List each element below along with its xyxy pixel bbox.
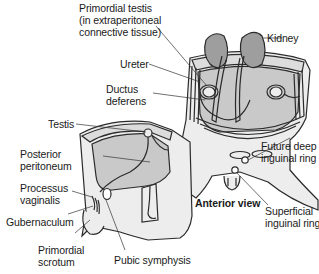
label-gubernaculum: Gubernaculum [6,216,74,228]
label-primordial-scrotum: Primordial scrotum [38,244,84,268]
label-primordial-testis: Primordial testis (in extraperitoneal co… [79,2,161,38]
label-pubic-symphysis: Pubic symphysis [114,254,191,266]
label-superficial-inguinal-ring: Superficial inguinal ring [265,205,319,229]
label-future-deep-inguinal-ring: Future deep inguinal ring [261,140,317,164]
label-testis: Testis [48,118,74,130]
label-ductus-deferens: Ductus deferens [106,83,146,107]
label-kidney: Kidney [267,32,299,44]
label-anterior-view: Anterior view [195,197,260,209]
label-ureter: Ureter [120,58,149,70]
label-posterior-peritoneum: Posterior peritoneum [20,148,72,172]
embryology-diagram: Primordial testis (in extraperitoneal co… [0,0,319,274]
later-stage-specimen [80,121,192,240]
label-processus-vaginalis: Processus vaginalis [20,182,68,206]
